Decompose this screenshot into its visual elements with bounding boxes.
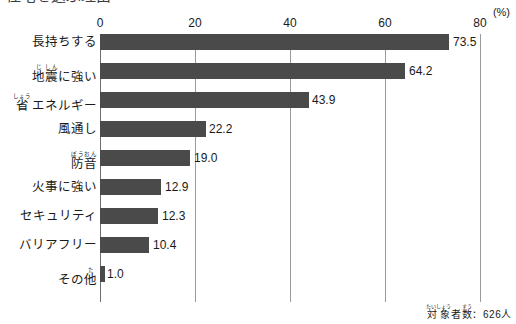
category-label-barrierfree: バリアフリー [1,238,97,253]
category-label-kazetoshi: 風通し [1,122,97,137]
category-label-jishin: 地じ震しんに強い [1,64,97,85]
bar-shoenergy [100,92,309,108]
ruby-ji: じ [32,64,45,70]
category-label-security: セキュリティ [1,209,97,224]
xtick-label-80: 80 [473,16,486,30]
bar-value-nagamochi: 73.5 [453,34,476,50]
category-label-sonota: その他た [1,267,97,288]
bar-bouon [100,150,190,166]
bar-kazetoshi [100,121,206,137]
bar-kaji [100,179,161,195]
bar-nagamochi [100,34,449,50]
bar-barrierfree [100,237,149,253]
xtick-label-0: 0 [97,16,104,30]
bar-security [100,208,158,224]
bar-value-security: 12.3 [162,208,185,224]
bar-value-barrierfree: 10.4 [153,237,176,253]
ruby-bouon: ぼうおん [71,151,97,157]
ruby-taishou: たいしょう [426,303,451,309]
ruby-suu: すう [462,303,473,309]
category-axis-labels: 長持ちする 地じ震しんに強い 省しょう エネルギー 風通し 防音ぼうおん 火事に… [0,34,97,302]
bar-value-bouon: 19.0 [194,150,217,166]
sample-size-value: 626 [483,309,502,320]
bar-jishin [100,63,405,79]
sample-size-note: 対象たいしょう者数すう：626人 [426,303,512,322]
bar-value-sonota: 1.0 [107,266,124,282]
plot-area: 0 20 40 60 80 73.5 64.2 43.9 22.2 19.0 1 [100,34,480,302]
ruby-shou: しょう [13,93,31,99]
category-label-shoenergy: 省しょう エネルギー [1,93,97,114]
ruby-ta: た [84,267,97,273]
bar-value-shoenergy: 43.9 [312,92,335,108]
bar-value-kaji: 12.9 [165,179,188,195]
bar-sonota [100,266,105,282]
xtick-label-20: 20 [188,16,201,30]
gridline-80 [480,34,481,302]
ruby-shin: しん [45,64,58,70]
xtick-label-60: 60 [378,16,391,30]
category-label-kaji: 火事に強い [1,180,97,195]
bar-value-jishin: 64.2 [409,63,432,79]
category-label-bouon: 防音ぼうおん [1,151,97,172]
sample-size-counter: 人 [501,309,512,320]
page-title-text: 住宅を選ぶ理由 [6,0,111,5]
bar-chart: 住宅を選ぶ理由 (%) 長持ちする 地じ震しんに強い 省しょう エネルギー 風通… [0,0,516,324]
category-label-nagamochi: 長持ちする [1,35,97,50]
page-title-cutoff: 住宅を選ぶ理由 [6,0,256,7]
xtick-label-40: 40 [283,16,296,30]
axis-unit-label: (%) [493,6,510,18]
bar-value-kazetoshi: 22.2 [209,121,232,137]
sample-size-separator: ： [472,309,483,320]
